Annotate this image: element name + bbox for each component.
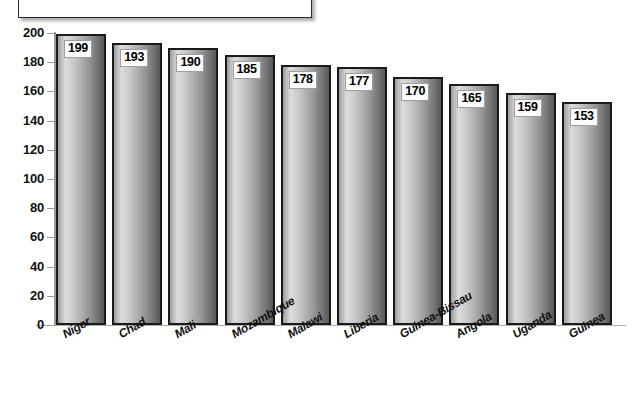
bar-value-label: 153 <box>570 108 598 126</box>
bar: 159 <box>506 93 556 325</box>
y-tick-mark <box>47 62 55 63</box>
plot-area: 199193190185178177170165159153 <box>56 33 626 325</box>
y-tick-label: 100 <box>23 171 44 186</box>
bar-value-label: 190 <box>176 54 204 72</box>
bar-value-label: 193 <box>120 49 148 67</box>
y-tick-label: 60 <box>30 229 44 244</box>
y-tick-label: 140 <box>23 113 44 128</box>
y-tick-mark <box>47 150 55 151</box>
bar: 178 <box>281 65 331 325</box>
bar-value-label: 159 <box>514 99 542 117</box>
y-tick-mark <box>47 33 55 34</box>
y-tick-label: 180 <box>23 54 44 69</box>
y-tick-mark <box>47 208 55 209</box>
bar: 170 <box>393 77 443 325</box>
bar-value-label: 170 <box>401 83 429 101</box>
bar-value-label: 177 <box>345 73 373 91</box>
bar: 153 <box>562 102 612 325</box>
bar-value-label: 185 <box>233 61 261 79</box>
y-tick-label: 120 <box>23 142 44 157</box>
bar: 185 <box>225 55 275 325</box>
y-tick-mark <box>47 267 55 268</box>
bar-value-label: 199 <box>64 40 92 58</box>
bar: 193 <box>112 43 162 325</box>
y-tick-label: 40 <box>30 259 44 274</box>
y-tick-mark <box>47 296 55 297</box>
bar: 165 <box>449 84 499 325</box>
bar: 177 <box>337 67 387 325</box>
y-tick-mark <box>47 179 55 180</box>
y-tick-label: 200 <box>23 25 44 40</box>
y-tick-label: 80 <box>30 200 44 215</box>
chart-title-box <box>18 0 312 18</box>
bar-chart: 200180160140120100806040200 199193190185… <box>0 0 637 403</box>
y-tick-label: 20 <box>30 288 44 303</box>
y-tick-label: 160 <box>23 83 44 98</box>
y-tick-mark <box>47 237 55 238</box>
bar-value-label: 178 <box>289 71 317 89</box>
y-tick-label: 0 <box>37 317 44 332</box>
footnote-text <box>104 396 534 403</box>
y-tick-mark <box>47 121 55 122</box>
bar: 199 <box>56 34 106 325</box>
y-tick-mark <box>47 325 55 326</box>
bar: 190 <box>168 48 218 325</box>
y-tick-mark <box>47 91 55 92</box>
bar-value-label: 165 <box>457 90 485 108</box>
